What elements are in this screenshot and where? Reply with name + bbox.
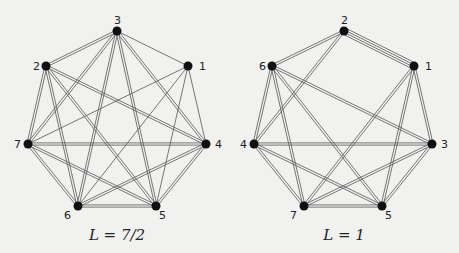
edge-1-4: [188, 66, 206, 144]
edge-3-7: [304, 143, 432, 205]
node-2: [340, 27, 349, 36]
node-2: [42, 62, 51, 71]
edge-3-2: [46, 32, 117, 67]
node-label: 1: [425, 60, 432, 73]
edge-1-5: [381, 66, 413, 206]
edge-1-7: [305, 67, 415, 207]
graph-left: 1234567L = 7/2: [14, 14, 222, 244]
edge-2-1: [343, 34, 413, 69]
node-4: [250, 140, 259, 149]
node-6: [74, 202, 83, 211]
graph-caption: L = 7/2: [88, 226, 145, 244]
edge-6-3: [272, 65, 432, 143]
edge-2-4: [46, 67, 206, 145]
node-label: 7: [290, 209, 297, 222]
edge-2-6: [272, 32, 344, 67]
edge-4-5: [155, 143, 205, 205]
node-label: 5: [159, 209, 166, 222]
node-1: [184, 62, 193, 71]
edge-3-4: [116, 32, 205, 145]
edge-4-5: [254, 143, 382, 205]
node-label: 2: [33, 60, 40, 73]
node-3: [113, 27, 122, 36]
node-label: 2: [341, 14, 348, 27]
edge-4-5: [254, 145, 382, 207]
edge-4-6: [78, 145, 206, 207]
node-7: [24, 140, 33, 149]
node-3: [428, 140, 437, 149]
graph-caption: L = 1: [322, 226, 365, 244]
edge-1-3: [413, 66, 431, 144]
node-label: 1: [199, 60, 206, 73]
edge-4-7: [255, 143, 305, 205]
edge-3-7: [27, 30, 116, 143]
edge-3-1: [117, 31, 188, 66]
edge-3-5: [116, 31, 155, 206]
node-label: 4: [215, 138, 222, 151]
node-1: [410, 62, 419, 71]
node-label: 3: [114, 14, 121, 27]
node-label: 3: [441, 138, 448, 151]
edge-6-5: [271, 67, 381, 207]
edge-3-4: [118, 30, 207, 143]
node-label: 4: [240, 138, 247, 151]
edge-3-5: [381, 143, 431, 205]
node-label: 6: [259, 60, 266, 73]
node-7: [300, 202, 309, 211]
edge-7-5: [28, 143, 156, 205]
graph-right: 1234567L = 1: [240, 14, 448, 244]
node-label: 7: [14, 138, 21, 151]
edge-2-5: [45, 67, 155, 207]
edge-2-4: [253, 30, 343, 143]
edge-2-1: [345, 28, 415, 63]
edge-6-3: [272, 67, 432, 145]
edge-6-7: [273, 66, 305, 206]
edge-1-3: [415, 66, 433, 144]
graph-figure: 1234567L = 7/21234567L = 1: [0, 0, 459, 253]
edge-2-1: [344, 32, 414, 67]
node-4: [202, 140, 211, 149]
edge-3-6: [77, 31, 116, 206]
edge-3-7: [304, 145, 432, 207]
edge-7-6: [29, 143, 79, 205]
edge-4-6: [78, 143, 206, 205]
node-label: 6: [64, 209, 71, 222]
edge-7-5: [28, 145, 156, 207]
node-label: 5: [385, 209, 392, 222]
edge-4-5: [157, 145, 207, 207]
node-6: [268, 62, 277, 71]
edge-2-1: [344, 30, 414, 65]
edge-2-4: [46, 65, 206, 143]
